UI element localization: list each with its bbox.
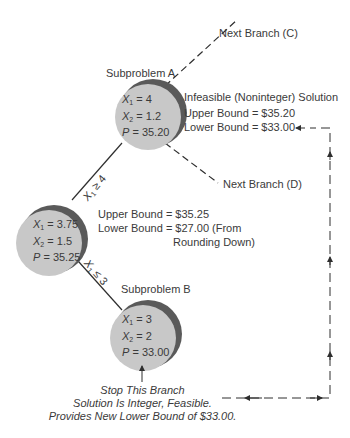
subproblem-b-values: X1 = 3 X2 = 2 P = 33.00 (122, 313, 169, 360)
stop-note-line-3: Provides New Lower Bound of $33.00. (40, 410, 245, 423)
root-lower-bound-cont: Rounding Down) (173, 236, 255, 249)
next-branch-d-line (165, 143, 218, 183)
subproblem-a-title: Subproblem A (106, 67, 175, 80)
root-node-values: X1 = 3.75 X2 = 1.5 P = 35.25 (33, 218, 80, 265)
subproblem-a-lower-bound: Lower Bound = $33.00 (184, 121, 295, 134)
subproblem-b-title: Subproblem B (121, 283, 191, 296)
next-branch-d-label: Next Branch (D) (223, 178, 302, 191)
feedback-dashed-path (222, 128, 330, 398)
stop-note-line-2: Solution Is Integer, Feasible. (40, 397, 245, 410)
subproblem-a-values: X1 = 4 X2 = 1.2 P = 35.20 (122, 93, 169, 140)
subproblem-a-status: Infeasible (Noninteger) Solution (184, 91, 338, 104)
stop-branch-note: Stop This Branch Solution Is Integer, Fe… (40, 384, 245, 423)
next-branch-c-label: Next Branch (C) (219, 27, 298, 40)
root-lower-bound: Lower Bound = $27.00 (From (98, 222, 241, 235)
root-upper-bound: Upper Bound = $35.25 (98, 208, 209, 221)
branch-and-bound-diagram: Next Branch (C) Next Branch (D) Subprobl… (0, 0, 350, 438)
subproblem-a-upper-bound: Upper Bound = $35.20 (184, 107, 295, 120)
stop-note-line-1: Stop This Branch (40, 384, 245, 397)
